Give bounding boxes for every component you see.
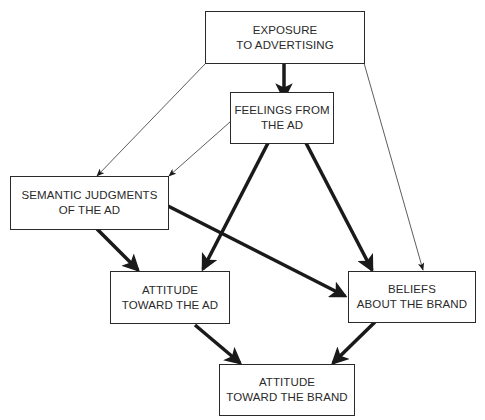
node-feelings-from-the-ad: FEELINGS FROM THE AD [230, 92, 334, 144]
edge-exposure-to-beliefs [364, 63, 423, 270]
edge-beliefs-to-attitude-brand [333, 322, 375, 363]
node-semantic-judgments-of-the-ad: SEMANTIC JUDGMENTS OF THE AD [10, 176, 169, 230]
edge-semantic-to-attitude-ad [97, 229, 138, 270]
node-label-line2: TO ADVERTISING [236, 38, 333, 53]
node-exposure-to-advertising: EXPOSURE TO ADVERTISING [205, 11, 365, 64]
node-attitude-toward-the-brand: ATTITUDE TOWARD THE BRAND [219, 364, 355, 416]
node-label-line1: BELIEFS [388, 282, 436, 297]
node-attitude-toward-the-ad: ATTITUDE TOWARD THE AD [110, 271, 230, 324]
node-label-line1: SEMANTIC JUDGMENTS [22, 188, 158, 203]
edge-feelings-to-beliefs [306, 143, 372, 270]
node-label-line2: TOWARD THE BRAND [226, 390, 348, 405]
edge-exposure-to-semantic [97, 63, 206, 176]
node-label-line1: ATTITUDE [259, 375, 315, 390]
edge-feelings-to-semantic [169, 122, 230, 176]
node-label-line2: THE AD [261, 118, 303, 133]
node-label-line2: OF THE AD [59, 203, 120, 218]
diagram-canvas: EXPOSURE TO ADVERTISING FEELINGS FROM TH… [0, 0, 485, 420]
node-label-line2: TOWARD THE AD [122, 298, 218, 313]
node-label-line1: FEELINGS FROM [234, 103, 329, 118]
node-label-line1: EXPOSURE [253, 23, 318, 38]
edge-attitude-ad-to-attitude-brand [195, 325, 240, 363]
node-label-line2: ABOUT THE BRAND [357, 297, 467, 312]
node-beliefs-about-the-brand: BELIEFS ABOUT THE BRAND [348, 271, 476, 323]
node-label-line1: ATTITUDE [142, 283, 198, 298]
